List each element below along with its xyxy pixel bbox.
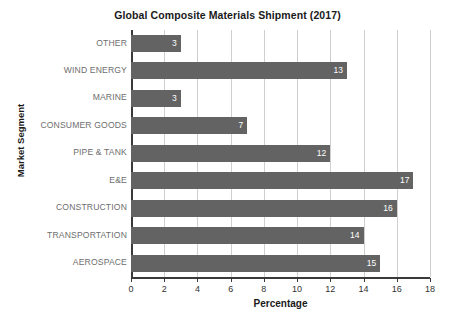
x-axis-tick: [131, 278, 132, 282]
bar-row[interactable]: 14: [131, 222, 430, 249]
x-axis-tick-label: 4: [195, 284, 200, 294]
x-axis-tick: [197, 278, 198, 282]
bar-value-label: 12: [317, 145, 326, 162]
x-axis-tick-label: 6: [228, 284, 233, 294]
category-label: TRANSPORTATION: [9, 230, 127, 240]
category-label: OTHER: [9, 38, 127, 48]
bar-row[interactable]: 12: [131, 140, 430, 167]
bar-row[interactable]: 3: [131, 30, 430, 57]
category-label: AEROSPACE: [9, 257, 127, 267]
x-axis-tick: [430, 278, 431, 282]
category-label: CONSUMER GOODS: [9, 120, 127, 130]
bar-row[interactable]: 3: [131, 85, 430, 112]
bar-value-label: 16: [383, 200, 392, 217]
x-axis-tick: [397, 278, 398, 282]
bar-value-label: 13: [333, 62, 342, 79]
bar-row[interactable]: 17: [131, 167, 430, 194]
category-label: MARINE: [9, 92, 127, 102]
bar[interactable]: 3: [131, 35, 181, 52]
bar-chart: Global Composite Materials Shipment (201…: [0, 0, 455, 322]
bar-row[interactable]: 13: [131, 57, 430, 84]
bar[interactable]: 13: [131, 62, 347, 79]
gridline: [430, 30, 431, 277]
category-label: PIPE & TANK: [9, 147, 127, 157]
plot-area: 024681012141618313371217161415: [131, 30, 430, 277]
category-label: E&E: [9, 175, 127, 185]
bar[interactable]: 14: [131, 227, 364, 244]
chart-title: Global Composite Materials Shipment (201…: [0, 9, 455, 21]
x-axis-tick-label: 2: [162, 284, 167, 294]
x-axis-line: [131, 277, 430, 279]
x-axis-tick: [330, 278, 331, 282]
bar[interactable]: 15: [131, 255, 380, 272]
bar-value-label: 14: [350, 227, 359, 244]
bar[interactable]: 12: [131, 145, 330, 162]
bar-row[interactable]: 16: [131, 195, 430, 222]
x-axis-title: Percentage: [131, 298, 430, 309]
bar-row[interactable]: 7: [131, 112, 430, 139]
x-axis-tick: [164, 278, 165, 282]
bar-value-label: 15: [367, 255, 376, 272]
bar[interactable]: 7: [131, 117, 247, 134]
category-label: CONSTRUCTION: [9, 202, 127, 212]
bar-value-label: 3: [172, 90, 177, 107]
x-axis-tick: [364, 278, 365, 282]
bar[interactable]: 17: [131, 172, 413, 189]
category-label-column: OTHERWIND ENERGYMARINECONSUMER GOODSPIPE…: [9, 30, 127, 277]
bar-value-label: 3: [172, 35, 177, 52]
x-axis-tick: [264, 278, 265, 282]
x-axis-tick-label: 12: [325, 284, 335, 294]
bar[interactable]: 3: [131, 90, 181, 107]
bar-value-label: 17: [400, 172, 409, 189]
x-axis-tick-label: 0: [128, 284, 133, 294]
x-axis-tick-label: 14: [359, 284, 369, 294]
bar[interactable]: 16: [131, 200, 397, 217]
category-label: WIND ENERGY: [9, 65, 127, 75]
x-axis-tick-label: 18: [425, 284, 435, 294]
x-axis-tick: [297, 278, 298, 282]
bar-value-label: 7: [239, 117, 244, 134]
bar-row[interactable]: 15: [131, 250, 430, 277]
x-axis-tick-label: 10: [292, 284, 302, 294]
x-axis-tick: [231, 278, 232, 282]
x-axis-tick-label: 16: [392, 284, 402, 294]
x-axis-tick-label: 8: [261, 284, 266, 294]
